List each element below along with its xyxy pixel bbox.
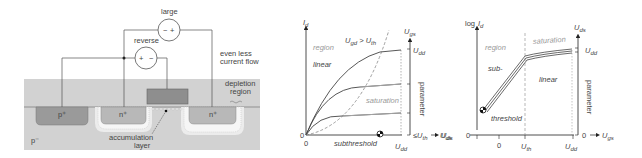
svg-text:−: −	[149, 54, 154, 63]
chart-logid-vs-ugs: log Id Uds Udd region saturation sub- li…	[440, 19, 614, 152]
left-zero: 0	[466, 131, 470, 140]
curve-ugs-mid	[306, 84, 401, 135]
p-minus-label: p⁻	[31, 136, 39, 145]
x-tick-udd: Udd	[395, 142, 408, 152]
reverse-label: reverse	[134, 36, 159, 45]
x-tick-udd: Udd	[565, 142, 578, 152]
linear-label: linear	[313, 60, 332, 69]
right-tick-udd: Udd	[585, 46, 598, 56]
n-plus-source-label: n⁺	[119, 110, 127, 119]
figure: − + large + − reverse p⁺ n⁺ n⁺ p⁻ even l…	[0, 0, 642, 158]
boundary-label: Ugd > Uth	[345, 36, 377, 46]
svg-text:+: +	[170, 26, 175, 35]
even-less-label-2: current flow	[220, 57, 259, 66]
gate	[147, 89, 188, 104]
saturation-label: saturation	[366, 96, 399, 105]
x-label-ugs: Ugs	[602, 131, 614, 141]
linear-label: linear	[539, 75, 558, 84]
y-label-id: Id	[478, 19, 484, 29]
mosfet-cross-section: − + large + − reverse p⁺ n⁺ n⁺ p⁻ even l…	[24, 7, 260, 150]
chart-id-vs-uds: Id Ugd > Uth Ugs Udd region linear satur…	[300, 18, 453, 152]
parameter-label: parameter	[418, 82, 427, 117]
subthreshold-label: subthreshold	[334, 139, 378, 148]
y-label-id: Id	[303, 18, 309, 28]
right-axis-label-ugs: Ugs	[404, 27, 416, 37]
region-label: region	[313, 43, 334, 52]
x-tick-zero: 0	[497, 141, 501, 150]
p-plus-label: p⁺	[58, 110, 66, 119]
svg-text:+: +	[139, 54, 144, 63]
x-zero: 0	[304, 139, 308, 148]
logid-curves	[483, 49, 572, 112]
accumulation-label-2: layer	[134, 141, 151, 150]
parameter-label: parameter	[585, 80, 594, 115]
y-label-log: log	[465, 19, 475, 28]
right-zero: 0	[582, 131, 586, 140]
curve-ugs-low	[306, 113, 401, 135]
region-label: region	[485, 43, 506, 52]
x-tick-uth: Uth	[521, 142, 532, 152]
source-large: − + large	[158, 7, 180, 41]
saturation-label: saturation	[533, 35, 566, 46]
threshold-label: threshold	[491, 114, 523, 123]
depletion-label-2: region	[230, 87, 251, 96]
n-plus-drain-label: n⁺	[209, 110, 217, 119]
wire-junction	[123, 57, 126, 60]
source-reverse: + − reverse	[134, 36, 159, 69]
right-tick-udd: Udd	[413, 46, 426, 56]
right-tick-uth: ≤Uth	[413, 131, 428, 141]
svg-text:−: −	[163, 26, 168, 35]
large-label: large	[161, 7, 178, 16]
right-axis-label-uds: Uds	[574, 23, 586, 33]
sub-label: sub-	[488, 64, 503, 73]
